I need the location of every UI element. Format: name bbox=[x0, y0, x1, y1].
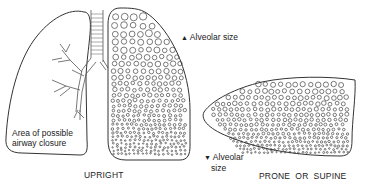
prone-lung-outline bbox=[203, 77, 355, 156]
alveolar-size-top-text: Alveolar size bbox=[190, 32, 238, 42]
arrow-down-icon: ▼ bbox=[204, 154, 211, 161]
upright-caption: UPRIGHT bbox=[84, 170, 124, 180]
arrow-up-icon: ▲ bbox=[181, 34, 188, 41]
alveolar-size-top-label: ▲ Alveolar size bbox=[181, 32, 238, 43]
alveoli-upright bbox=[111, 13, 187, 156]
trachea bbox=[52, 10, 108, 120]
airway-closure-label-line1: Area of possible bbox=[12, 128, 73, 138]
alveolar-size-bottom-label: ▼ Alveolar size bbox=[204, 152, 244, 173]
airway-closure-label-line2: airway closure bbox=[12, 138, 73, 148]
alveolar-size-bottom-text-1: Alveolar bbox=[213, 152, 244, 162]
prone-caption: PRONE OR SUPINE bbox=[259, 171, 346, 181]
alveolar-size-bottom-text-2: size bbox=[204, 163, 244, 173]
airway-closure-label: Area of possible airway closure bbox=[12, 128, 73, 148]
diagram-canvas bbox=[0, 0, 367, 185]
